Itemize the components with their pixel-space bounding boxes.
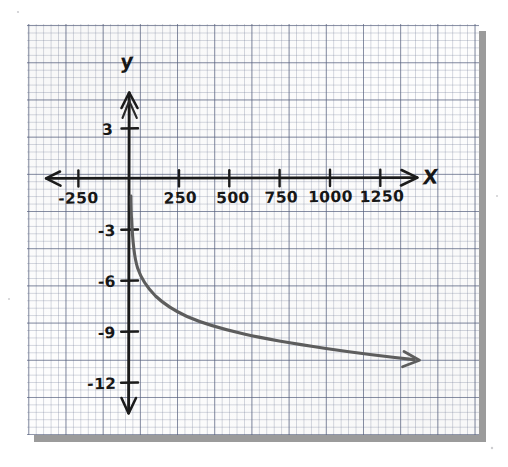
logarithmic-curve [131, 196, 420, 367]
x-tick-label-1000: 1000 [308, 188, 353, 207]
x-tick-labels: -250 250 500 750 1000 1250 [58, 187, 405, 208]
x-tick-label--250: -250 [58, 189, 99, 208]
y-tick-labels: 3 -3 -6 -9 -12 [87, 121, 117, 394]
screenshot-canvas: -250 250 500 750 1000 1250 3 -3 -6 -9 -1… [0, 0, 508, 467]
x-axis-label: X [420, 164, 441, 189]
x-tick-label-500: 500 [216, 189, 250, 208]
scan-speck [8, 298, 10, 300]
y-tick-label--12: -12 [87, 375, 117, 394]
scan-speck [491, 447, 493, 449]
y-tick-label--6: -6 [98, 273, 116, 291]
y-tick-label--9: -9 [97, 324, 116, 343]
curve-path [132, 218, 414, 360]
scan-speck [496, 195, 498, 197]
x-tick-label-1250: 1250 [359, 187, 404, 206]
ink-layer: -250 250 500 750 1000 1250 3 -3 -6 -9 -1… [0, 0, 508, 467]
curve-asymptote-tail [131, 196, 132, 218]
y-tick-label--3: -3 [97, 222, 116, 241]
x-tick-label-750: 750 [264, 188, 298, 207]
x-axis-line [47, 178, 418, 179]
x-axis [46, 170, 418, 186]
scan-speck [17, 11, 19, 13]
y-axis-label: y [119, 48, 135, 73]
x-tick-label-250: 250 [163, 189, 197, 208]
y-axis-line [129, 93, 130, 413]
y-tick-label-3: 3 [102, 121, 114, 139]
